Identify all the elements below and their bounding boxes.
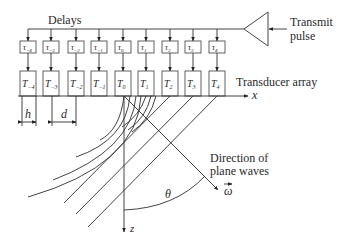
transmit-label-line1: Transmit [290, 15, 334, 29]
h-label: h [25, 107, 31, 121]
plane-wavefronts [64, 96, 217, 227]
delays-label: Delays [48, 13, 82, 27]
phased-array-diagram: Delays Transmit pulse τ−4T−4τ−3T−3τ−2T−2… [0, 0, 344, 246]
direction-label-line2: plane waves [210, 164, 269, 178]
amplifier-triangle-icon [244, 12, 268, 46]
theta-label: θ [165, 187, 171, 201]
direction-label-line1: Direction of [210, 151, 268, 165]
transmit-label-line2: pulse [290, 29, 315, 43]
omega-vector-label: ω [224, 184, 232, 198]
d-label: d [61, 107, 68, 121]
spherical-wavelets [28, 96, 156, 197]
transducer-array-label: Transducer array [236, 75, 317, 89]
x-axis-label: x [251, 88, 258, 102]
element-columns: τ−4T−4τ−3T−3τ−2T−2τ−1T−1τ0T0τ1T1τ2T2τ3T3… [20, 29, 225, 96]
z-axis-label: z [129, 222, 135, 234]
